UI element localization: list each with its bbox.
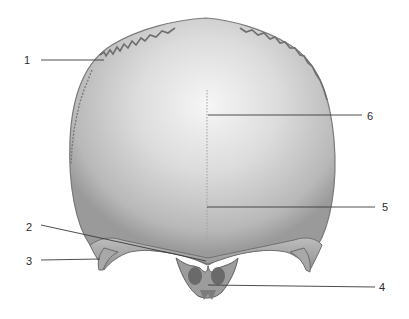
leader-4 — [208, 285, 375, 287]
label-4: 4 — [379, 281, 385, 293]
frontal-squama — [70, 18, 335, 265]
label-3: 3 — [26, 255, 32, 267]
leader-3 — [41, 259, 100, 260]
label-6: 6 — [367, 110, 373, 122]
label-2: 2 — [26, 221, 32, 233]
label-5: 5 — [382, 201, 388, 213]
frontal-sinus-left — [188, 267, 202, 285]
frontal-sinus-right — [211, 267, 225, 285]
label-1: 1 — [24, 54, 30, 66]
frontal-bone-diagram: 1 2 3 4 5 6 — [0, 0, 409, 319]
